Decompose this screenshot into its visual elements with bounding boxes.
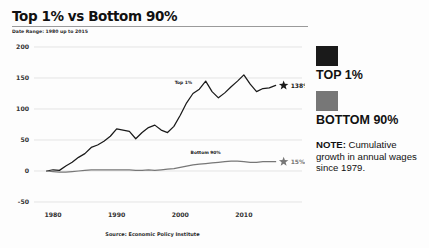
chart-plot-area: -50050100150200 1980199020002010 Top 1%B… (0, 42, 305, 228)
legend-label-bottom-90: BOTTOM 90% (316, 113, 424, 127)
series-paths-group (47, 75, 276, 172)
line-chart-svg: -50050100150200 1980199020002010 Top 1%B… (0, 42, 305, 228)
y-tick-0: 0 (25, 167, 30, 174)
legend-swatch-top-1 (316, 46, 338, 66)
x-tick-2010: 2010 (235, 211, 253, 218)
y-tick-200: 200 (16, 43, 30, 50)
endpoint-label-top-1: 138% (291, 82, 305, 89)
legend-note: NOTE: Cumulative growth in annual wages … (316, 139, 420, 174)
star-marker-top-1- (279, 80, 289, 89)
legend-note-heading: NOTE: (316, 139, 346, 150)
inline-label-top-1: Top 1% (175, 80, 193, 85)
series-line-bottom-90- (47, 161, 276, 172)
legend-item-top-1: TOP 1% (316, 46, 424, 82)
y-tick-150: 150 (16, 74, 30, 81)
y-tick-100: 100 (16, 105, 30, 112)
legend-item-bottom-90: BOTTOM 90% (316, 91, 424, 127)
endpoint-label-bottom-90: 15% (291, 158, 305, 165)
legend-label-top-1: TOP 1% (316, 68, 424, 82)
title-divider (12, 26, 308, 27)
x-axis-tick-labels: 1980199020002010 (44, 211, 253, 218)
series-line-top-1- (47, 75, 276, 171)
inline-label-bottom-90: Bottom 90% (191, 150, 222, 155)
page-title: Top 1% vs Bottom 90% (12, 9, 308, 24)
y-tick-50: 50 (20, 136, 29, 143)
chart-header: Top 1% vs Bottom 90% Date Range: 1980 up… (12, 9, 308, 34)
gridlines-group (34, 47, 302, 202)
y-axis-tick-labels: -50050100150200 (16, 43, 30, 205)
legend-swatch-bottom-90 (316, 91, 338, 111)
star-marker-bottom-90- (279, 157, 289, 166)
chart-legend: TOP 1% BOTTOM 90% NOTE: Cumulative growt… (316, 46, 424, 174)
endpoint-markers-group (279, 80, 289, 165)
x-tick-1990: 1990 (108, 211, 126, 218)
y-tick--50: -50 (18, 198, 30, 205)
x-tick-2000: 2000 (172, 211, 190, 218)
x-tick-1980: 1980 (44, 211, 62, 218)
source-caption: Source: Economic Policy Institute (0, 231, 305, 237)
chart-card: Top 1% vs Bottom 90% Date Range: 1980 up… (0, 0, 429, 248)
chart-subtitle: Date Range: 1980 up to 2015 (12, 29, 308, 34)
